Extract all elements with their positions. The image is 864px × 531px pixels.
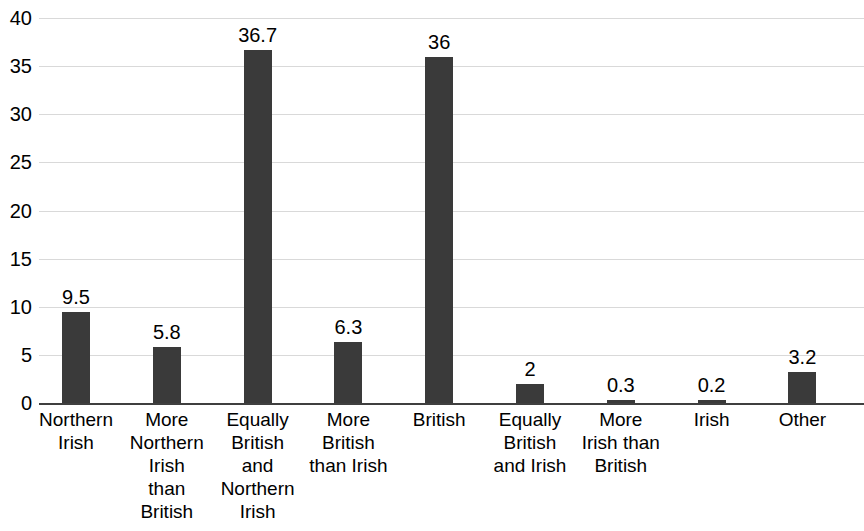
x-axis-label-line: British (395, 408, 483, 431)
bar-value-label: 0.3 (581, 374, 661, 396)
x-axis-label-line: Irish (668, 408, 756, 431)
x-axis-category-label: NorthernIrish (32, 408, 120, 454)
y-axis-tick-label: 25 (0, 152, 32, 172)
bar-value-label: 3.2 (762, 346, 842, 368)
plot-area: 0510152025303540 9.55.836.76.33620.30.23… (0, 0, 864, 405)
y-axis-tick-label: 40 (0, 8, 32, 28)
y-axis-tick-label: 15 (0, 249, 32, 269)
x-axis-label-line: More (577, 408, 665, 431)
x-axis-category-label: MoreIrish thanBritish (577, 408, 665, 477)
bar (153, 347, 181, 403)
x-axis-label-line: More (304, 408, 392, 431)
x-axis-label-line: Northern (214, 477, 302, 500)
bar (334, 342, 362, 403)
y-axis-tick-label: 30 (0, 104, 32, 124)
x-axis-label-line: and (214, 454, 302, 477)
x-axis-label-line: Irish (32, 431, 120, 454)
x-axis-baseline (39, 403, 864, 405)
bar-value-label: 36.7 (218, 24, 298, 46)
x-axis-label-line: More (123, 408, 211, 431)
x-axis-label-line: Equally (214, 408, 302, 431)
bar-value-label: 5.8 (127, 321, 207, 343)
x-axis-label-line: British (486, 431, 574, 454)
x-axis-label-line: and Irish (486, 454, 574, 477)
x-axis-label-line: than Irish (304, 454, 392, 477)
bar (516, 384, 544, 403)
x-axis-category-label: MoreBritishthan Irish (304, 408, 392, 477)
x-axis-category-label: British (395, 408, 483, 431)
y-axis-tick-label: 0 (0, 393, 32, 413)
bar-value-label: 0.2 (672, 374, 752, 396)
bar-value-label: 36 (399, 31, 479, 53)
x-axis-category-label: EquallyBritishandNorthernIrish (214, 408, 302, 523)
x-axis-label-line: Irish (214, 500, 302, 523)
gridline (39, 18, 864, 19)
x-axis-category-label: MoreNorthernIrishthanBritish (123, 408, 211, 523)
x-axis-label-line: Other (758, 408, 846, 431)
x-axis-category-label: Other (758, 408, 846, 431)
x-axis-label-line: Northern (32, 408, 120, 431)
bar-value-label: 6.3 (308, 316, 388, 338)
bar (788, 372, 816, 403)
x-axis-category-label: Irish (668, 408, 756, 431)
y-axis-tick-label: 20 (0, 201, 32, 221)
x-axis-label-line: British (123, 500, 211, 523)
y-axis-tick-label: 35 (0, 56, 32, 76)
bar (62, 312, 90, 403)
x-axis-label-line: Irish (123, 454, 211, 477)
bar-value-label: 2 (490, 358, 570, 380)
x-axis-label-line: British (577, 454, 665, 477)
y-axis-tick-label: 5 (0, 345, 32, 365)
x-axis-label-line: British (304, 431, 392, 454)
x-axis-label-line: Irish than (577, 431, 665, 454)
x-axis-label-line: Equally (486, 408, 574, 431)
bar-value-label: 9.5 (36, 286, 116, 308)
bar-chart: 0510152025303540 9.55.836.76.33620.30.23… (0, 0, 864, 531)
x-axis-label-line: than (123, 477, 211, 500)
bar (244, 50, 272, 403)
x-axis-label-line: Northern (123, 431, 211, 454)
x-axis-label-line: British (214, 431, 302, 454)
y-axis-tick-label: 10 (0, 297, 32, 317)
bar (425, 57, 453, 404)
x-axis-category-label: EquallyBritishand Irish (486, 408, 574, 477)
